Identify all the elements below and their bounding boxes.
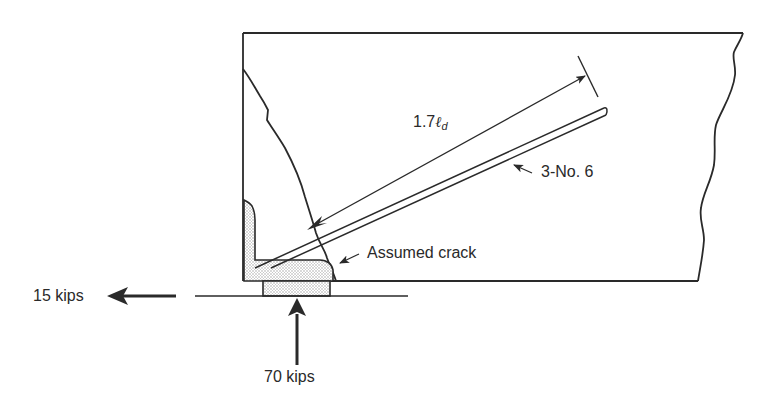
vertical-force-label: 70 kips bbox=[264, 369, 315, 385]
development-length-subscript: d bbox=[442, 120, 448, 132]
dimension-extension-tick bbox=[578, 56, 598, 97]
dimension-arrowhead-left-icon bbox=[307, 216, 327, 230]
leader-arrow-crack bbox=[340, 254, 359, 263]
development-length-label: 1.7ℓd bbox=[413, 114, 448, 130]
assumed-crack-label: Assumed crack bbox=[367, 245, 476, 261]
development-length-prefix: 1.7 bbox=[413, 113, 435, 130]
reinforcement-label: 3-No. 6 bbox=[541, 164, 593, 180]
beam-break-line bbox=[698, 33, 743, 281]
dimension-line-development-length bbox=[315, 76, 585, 225]
development-length-symbol: ℓ bbox=[435, 113, 441, 131]
arrowhead-up-icon bbox=[288, 298, 306, 316]
bearing-plate bbox=[263, 281, 330, 296]
horizontal-force-label: 15 kips bbox=[33, 288, 84, 304]
beam-outline bbox=[243, 33, 743, 281]
vertical-force-arrow bbox=[288, 298, 306, 365]
beam-end-detail-diagram bbox=[0, 0, 773, 404]
horizontal-force-arrow bbox=[107, 287, 176, 305]
assumed-crack-line bbox=[243, 69, 336, 281]
leader-arrow-reinforcement bbox=[514, 165, 532, 173]
